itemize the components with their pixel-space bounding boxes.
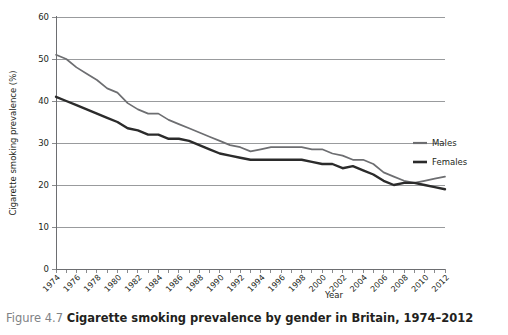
x-tick-label-1974: 1974 [41, 273, 62, 294]
x-tick-label-1982: 1982 [123, 273, 144, 294]
x-tick-label-1978: 1978 [82, 273, 103, 294]
line-chart-svg: 0102030405060 19741976197819801982198419… [0, 0, 508, 300]
x-tick-label-1984: 1984 [144, 273, 165, 294]
x-axis-title: Year [324, 290, 344, 300]
figure-caption: Figure 4.7 Cigarette smoking prevalence … [6, 311, 502, 325]
x-tick-label-2008: 2008 [389, 273, 410, 294]
y-tick-label-10: 10 [38, 222, 49, 232]
y-tick-label-40: 40 [38, 96, 49, 106]
series-line-males [56, 55, 445, 183]
x-tick-label-2012: 2012 [430, 273, 451, 294]
chart-plot-area: 0102030405060 19741976197819801982198419… [0, 0, 508, 300]
y-axis-title: Cigarette smoking prevalence (%) [8, 70, 18, 215]
x-tick-label-2010: 2010 [410, 273, 431, 294]
x-tick-label-2006: 2006 [369, 273, 390, 294]
axes-group [56, 16, 445, 269]
x-tick-label-1976: 1976 [62, 273, 83, 294]
x-tick-label-1986: 1986 [164, 273, 185, 294]
figure-caption-text: Cigarette smoking prevalence by gender i… [67, 311, 474, 325]
legend-label-females: Females [432, 157, 468, 167]
data-series-group [56, 55, 445, 189]
x-tick-label-1990: 1990 [205, 273, 226, 294]
x-tick-label-1994: 1994 [246, 273, 267, 294]
figure-container: 0102030405060 19741976197819801982198419… [0, 0, 508, 335]
legend-label-males: Males [432, 138, 457, 148]
x-tick-label-1988: 1988 [184, 273, 205, 294]
x-tick-labels-group: 1974197619781980198219841986198819901992… [41, 273, 451, 294]
x-tick-label-1996: 1996 [266, 273, 287, 294]
chart-legend: MalesFemales [413, 138, 468, 167]
y-tick-label-30: 30 [38, 138, 49, 148]
x-tick-label-1992: 1992 [225, 273, 246, 294]
y-tick-labels-group: 0102030405060 [38, 12, 49, 274]
figure-number: Figure 4.7 [6, 311, 63, 325]
y-tick-label-60: 60 [38, 12, 49, 22]
y-tick-label-0: 0 [44, 264, 49, 274]
x-tick-label-2004: 2004 [348, 273, 369, 294]
y-tick-label-20: 20 [38, 180, 49, 190]
x-tick-label-1980: 1980 [103, 273, 124, 294]
axis-ticks-group [52, 17, 445, 273]
x-tick-label-1998: 1998 [287, 273, 308, 294]
y-tick-label-50: 50 [38, 54, 49, 64]
